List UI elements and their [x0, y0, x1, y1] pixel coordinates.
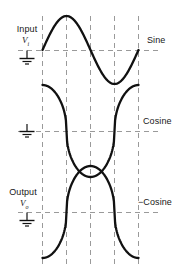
trace-label-neg-cosine: −Cosine — [138, 197, 172, 207]
vertical-gridlines — [43, 16, 139, 264]
input-symbol-subscript: i — [28, 41, 30, 47]
trace-label-cosine: Cosine — [143, 116, 172, 126]
output-symbol-subscript: o — [26, 204, 29, 210]
input-symbol: Vi — [22, 35, 29, 49]
ground-middle-icon — [20, 124, 35, 137]
output-label: Output — [0, 187, 46, 197]
ground-output-icon — [20, 213, 35, 227]
trace-label-sine: Sine — [147, 35, 165, 45]
output-symbol: Vo — [20, 198, 29, 212]
input-label: Input — [4, 24, 50, 34]
ground-input-icon — [20, 51, 35, 65]
